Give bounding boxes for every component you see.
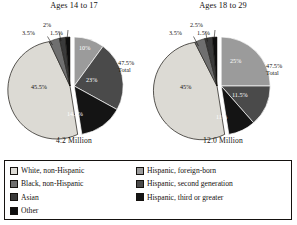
legend-swatch-hispanic-second-generation — [136, 180, 144, 188]
legend-label: Asian — [21, 192, 39, 203]
legend-label: White, non-Hispanic — [21, 165, 84, 176]
legend-item-asian: Asian — [10, 192, 136, 204]
hispanic-total-label: 47.5% Total — [118, 59, 134, 74]
hispanic-total-word: Total — [266, 69, 282, 76]
label-other: 1.5% — [50, 29, 63, 36]
hispanic-group — [74, 37, 123, 134]
legend-label: Hispanic, second generation — [147, 178, 233, 189]
legend-swatch-asian — [10, 193, 18, 201]
legend-swatch-white-non-hispanic — [10, 167, 18, 175]
legend-item-white-non-hispanic: White, non-Hispanic — [10, 165, 136, 177]
legend-swatch-black-non-hispanic — [10, 180, 18, 188]
label-asian: 2% — [43, 21, 51, 28]
legend: White, non-Hispanic Black, non-Hispanic … — [4, 160, 292, 220]
label-asian: 2.5% — [190, 21, 203, 28]
chart-footnote: 4.2 Million — [0, 136, 148, 145]
label-hispanic-third-or-greater: 14.5% — [67, 110, 83, 117]
legend-swatch-hispanic-foreign-born — [136, 167, 144, 175]
figure: Ages 14 to 17 — [0, 0, 297, 225]
legend-item-hispanic-second-generation: Hispanic, second generation — [136, 178, 286, 190]
legend-item-black-non-hispanic: Black, non-Hispanic — [10, 178, 136, 190]
slice-hispanic-foreign-born — [221, 37, 270, 86]
hispanic-total-percent: 47.5% — [266, 62, 282, 69]
pie-chart-ages-18-to-29: Ages 18 to 29 — [149, 0, 297, 152]
label-hispanic-third-or-greater: 11% — [216, 113, 227, 120]
label-black-non-hispanic: 3.5% — [169, 29, 182, 36]
legend-item-hispanic-third-or-greater: Hispanic, third or greater — [136, 192, 286, 204]
label-white-non-hispanic: 45.5% — [31, 83, 47, 90]
label-black-non-hispanic: 3.5% — [22, 29, 35, 36]
pie-graphic: 3.5% 2.5% 1.5% 25% 11.5% 11% 45% 47.5% T… — [149, 0, 297, 152]
legend-swatch-hispanic-third-or-greater — [136, 193, 144, 201]
legend-column-left: White, non-Hispanic Black, non-Hispanic … — [10, 165, 136, 219]
legend-label: Hispanic, foreign-born — [147, 165, 216, 176]
legend-label: Black, non-Hispanic — [21, 178, 83, 189]
hispanic-total-percent: 47.5% — [118, 59, 134, 66]
label-hispanic-second-generation: 23% — [86, 76, 97, 83]
hispanic-total-label: 47.5% Total — [266, 62, 282, 77]
pie-chart-ages-14-to-17: Ages 14 to 17 — [0, 0, 148, 152]
label-white-non-hispanic: 45% — [180, 83, 191, 90]
pie-graphic: 3.5% 2% 1.5% 10% 23% 14.5% 45.5% 47.5% T… — [0, 0, 148, 152]
hispanic-total-word: Total — [118, 66, 134, 73]
label-hispanic-second-generation: 11.5% — [232, 91, 248, 98]
label-other: 1.5% — [197, 29, 210, 36]
chart-footnote: 12.0 Million — [149, 136, 297, 145]
legend-swatch-other — [10, 207, 18, 215]
legend-column-right: Hispanic, foreign-born Hispanic, second … — [136, 165, 286, 219]
legend-label: Hispanic, third or greater — [147, 192, 223, 203]
label-hispanic-foreign-born: 10% — [79, 44, 90, 51]
hispanic-group — [221, 37, 270, 134]
legend-label: Other — [21, 205, 38, 216]
legend-item-other: Other — [10, 205, 136, 217]
legend-item-hispanic-foreign-born: Hispanic, foreign-born — [136, 165, 286, 177]
pie-svg — [0, 0, 148, 152]
label-hispanic-foreign-born: 25% — [230, 57, 241, 64]
